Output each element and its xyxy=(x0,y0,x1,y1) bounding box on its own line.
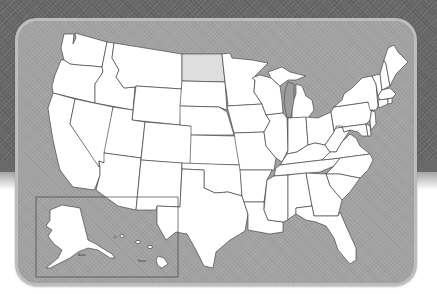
alaska-label: Alaska xyxy=(78,253,86,257)
state-mississippi[interactable] xyxy=(264,175,288,222)
state-wyoming[interactable] xyxy=(132,86,182,125)
island-hawaii[interactable] xyxy=(156,256,168,268)
state-michigan-lower[interactable] xyxy=(292,84,314,118)
state-new-mexico[interactable] xyxy=(136,160,182,210)
state-south-dakota[interactable] xyxy=(180,81,227,110)
state-kansas[interactable] xyxy=(190,135,240,165)
island-kauai[interactable] xyxy=(114,236,116,238)
state-colorado[interactable] xyxy=(141,122,193,164)
island-molokai[interactable] xyxy=(136,240,141,243)
island-maui[interactable] xyxy=(148,245,153,248)
state-connecticut[interactable] xyxy=(378,99,388,108)
us-map: Alaska Hawaii xyxy=(0,0,437,294)
state-washington[interactable] xyxy=(61,33,107,67)
hawaii-label: Hawaii xyxy=(138,259,146,263)
state-alaska[interactable] xyxy=(46,205,115,268)
island-oahu[interactable] xyxy=(120,235,124,238)
state-montana[interactable] xyxy=(112,43,182,89)
state-north-dakota[interactable] xyxy=(182,54,225,82)
state-rhode-island[interactable] xyxy=(388,98,392,104)
